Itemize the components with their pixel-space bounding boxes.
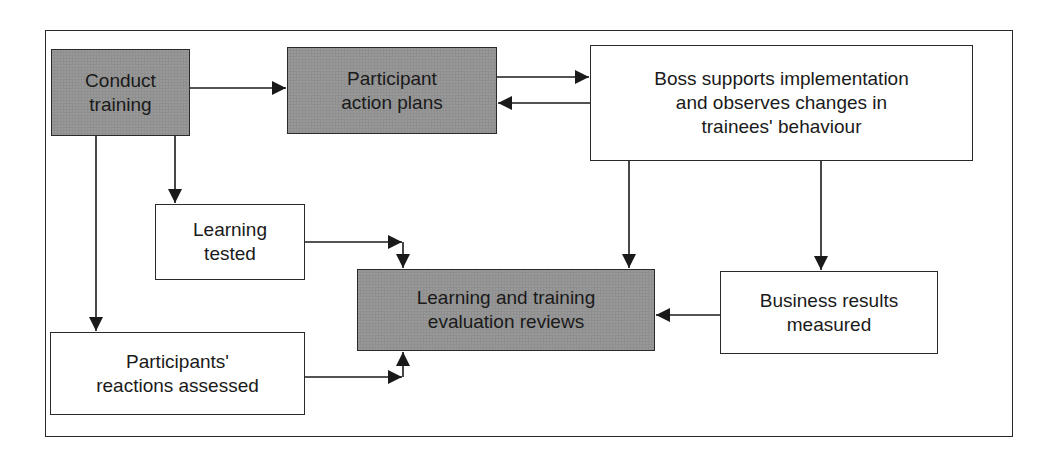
- node-conduct-training: Conduct training: [51, 49, 190, 136]
- node-label: Boss supports implementation and observe…: [654, 67, 909, 139]
- node-learning-tested: Learning tested: [155, 204, 305, 280]
- node-reactions-assessed: Participants' reactions assessed: [50, 332, 305, 415]
- node-label: Conduct training: [85, 69, 156, 117]
- node-label: Participant action plans: [341, 67, 442, 115]
- node-business-results: Business results measured: [720, 271, 938, 354]
- node-label: Business results measured: [760, 289, 898, 337]
- node-participant-action-plans: Participant action plans: [287, 47, 497, 134]
- node-label: Participants' reactions assessed: [96, 350, 259, 398]
- node-evaluation-reviews: Learning and training evaluation reviews: [357, 269, 655, 351]
- node-label: Learning tested: [193, 218, 267, 266]
- node-label: Learning and training evaluation reviews: [417, 286, 596, 334]
- node-boss-supports: Boss supports implementation and observe…: [590, 45, 973, 161]
